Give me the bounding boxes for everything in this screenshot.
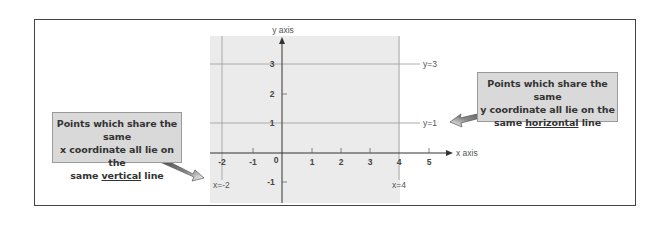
x-tick-label: 2 bbox=[339, 157, 344, 167]
grid-background bbox=[210, 36, 400, 203]
y-tick-label: 3 bbox=[270, 59, 275, 69]
left-callout-line-3: same vertical line bbox=[53, 169, 181, 182]
y-tick-label: -1 bbox=[267, 177, 275, 187]
y-axis-label: y axis bbox=[272, 25, 294, 35]
right-callout: Points which share the same y coordinate… bbox=[477, 72, 618, 122]
x-tick-label: 3 bbox=[368, 157, 373, 167]
x-tick-label: 4 bbox=[397, 157, 402, 167]
left-callout-line-1: Points which share the same bbox=[53, 117, 181, 143]
origin-label: 0 bbox=[274, 155, 279, 165]
x-tick-label: -2 bbox=[218, 157, 226, 167]
x-tick-label: 5 bbox=[427, 157, 432, 167]
line-label-y-1: y=1 bbox=[423, 118, 437, 128]
left-callout-line-2: x coordinate all lie on the bbox=[53, 143, 181, 169]
x-axis-arrow-icon bbox=[446, 150, 453, 156]
x-tick-label: 1 bbox=[310, 157, 315, 167]
emphasis-vertical: vertical bbox=[102, 170, 142, 181]
x-axis-label: x axis bbox=[456, 148, 478, 158]
right-callout-line-3: same horizontal line bbox=[478, 116, 617, 129]
y-tick-label: 1 bbox=[270, 118, 275, 128]
line-label-y-3: y=3 bbox=[423, 59, 437, 69]
y-tick-label: 2 bbox=[270, 89, 275, 99]
x-tick-label: -1 bbox=[249, 157, 257, 167]
right-callout-line-1: Points which share the same bbox=[478, 77, 617, 103]
right-callout-line-2: y coordinate all lie on the bbox=[478, 103, 617, 116]
line-label-x-4: x=4 bbox=[392, 180, 406, 190]
left-callout: Points which share the same x coordinate… bbox=[52, 112, 182, 163]
emphasis-horizontal: horizontal bbox=[525, 117, 578, 128]
line-label-x-neg2: x=-2 bbox=[213, 180, 230, 190]
